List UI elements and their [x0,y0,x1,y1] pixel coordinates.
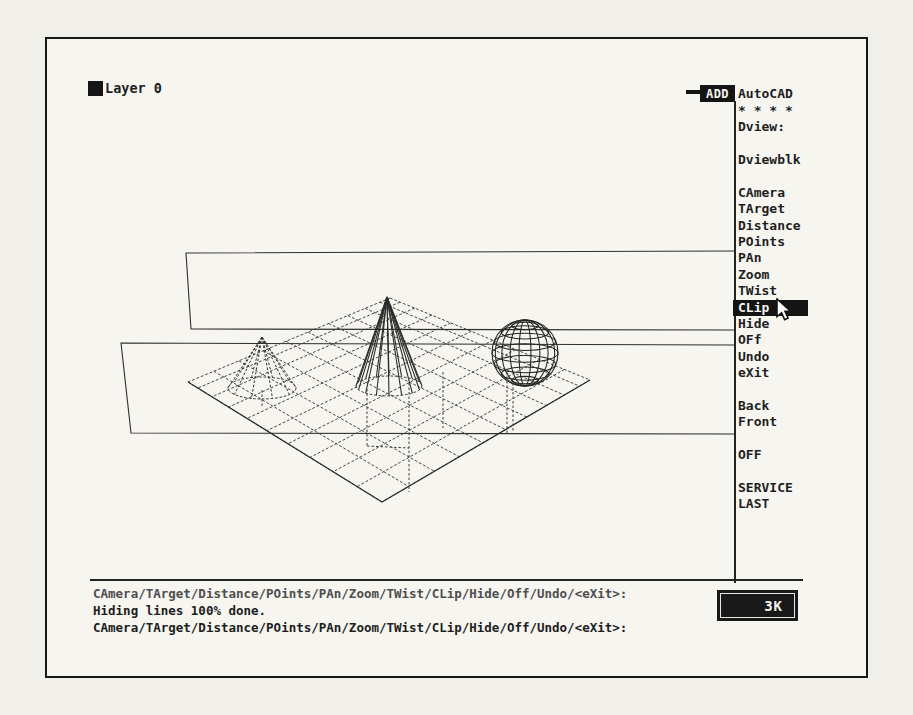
menu-item-undo[interactable]: Undo [738,349,810,365]
menu-item-points[interactable]: POints [738,234,810,250]
layer-status: Layer 0 [88,80,162,96]
menu-item-off[interactable]: OFF [738,447,810,463]
menu-item-blank [738,463,810,479]
menu-item-pan[interactable]: PAn [738,250,810,266]
memory-badge-value: 3K [720,593,795,618]
menu-item-dviewblk[interactable]: Dviewblk [738,152,810,168]
menu-item-zoom[interactable]: Zoom [738,267,810,283]
command-history-line: CAmera/TArget/Distance/POints/PAn/Zoom/T… [93,586,627,603]
command-prompt-line[interactable]: CAmera/TArget/Distance/POints/PAn/Zoom/T… [93,620,627,637]
menu-item-clip[interactable]: CLip [733,300,808,316]
menu-item-camera[interactable]: CAmera [738,185,810,201]
memory-badge: 3K [717,590,798,621]
mouse-cursor-icon [775,298,795,324]
menu-item-blank [738,381,810,397]
menu-item-hide[interactable]: Hide [738,316,810,332]
menu-divider [734,101,736,583]
small-cone [228,337,296,399]
menu-item-blank [738,169,810,185]
menu-item-front[interactable]: Front [738,414,810,430]
add-button[interactable]: ADD [700,85,735,102]
menu-item-target[interactable]: TArget [738,201,810,217]
clip-plane-upper [186,251,734,330]
command-area: CAmera/TArget/Distance/POints/PAn/Zoom/T… [93,586,627,637]
layer-color-swatch-icon [88,81,103,96]
command-divider [90,579,803,581]
menu-top-dash [686,90,701,94]
screen-menu: * * * *Dview: Dviewblk CAmeraTArgetDista… [738,103,810,512]
menu-item-distance[interactable]: Distance [738,218,810,234]
menu-item-last[interactable]: LAST [738,496,810,512]
menu-brand[interactable]: AutoCAD [738,86,793,101]
autocad-screen: Layer 0 ADD AutoCAD * * * *Dview: Dviewb… [0,0,913,715]
drop-lines [262,372,513,492]
menu-item-service[interactable]: SERVICE [738,480,810,496]
menu-item-blank[interactable]: * * * * [738,103,810,119]
menu-item-off[interactable]: OFf [738,332,810,348]
command-history-line: Hiding lines 100% done. [93,603,627,620]
layer-label: Layer 0 [105,80,162,96]
menu-item-back[interactable]: Back [738,398,810,414]
menu-item-twist[interactable]: TWist [738,283,810,299]
menu-item-blank [738,136,810,152]
menu-item-dview[interactable]: Dview: [738,119,810,135]
menu-item-blank [738,431,810,447]
menu-item-exit[interactable]: eXit [738,365,810,381]
